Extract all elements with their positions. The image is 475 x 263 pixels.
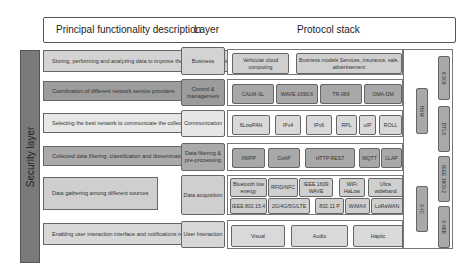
protocol-ble: Bluetooth low energy (230, 178, 267, 197)
protocol-rpl: RPL (336, 115, 357, 135)
row-description-data-acquisition: Data gathering among different sources (43, 177, 158, 210)
side-bar-dtls: DTLS (438, 106, 450, 152)
protocol-visual: Visual (231, 225, 285, 247)
protocol-tr069: TR-069 (320, 84, 362, 104)
protocol-coap: CoAP (268, 148, 300, 168)
layer-control-management: Control & management (181, 79, 225, 106)
row-description-control: Coordination of different network servic… (43, 81, 184, 101)
security-layer-bar: Security layer (20, 50, 40, 263)
protocol-calm-sl: CALM-SL (232, 84, 274, 104)
protocol-row-communication: 6LowPAN IPv4 IPv6 RPL uIP ROLL (227, 110, 403, 137)
protocol-row-control: CALM-SL WAVE-1690.6 TR-069 OMA-DM (227, 79, 403, 106)
row-description-data-filtering: Collected data filtering, classification… (43, 146, 196, 166)
protocol-roll: ROLL (379, 115, 402, 135)
protocol-wimax: WiMAX (345, 198, 370, 214)
security-layer-label: Security layer (25, 126, 36, 187)
side-bar-s-ic: S-IC (416, 186, 428, 232)
protocol-cellular: 2G/4G/5G/LTE (268, 198, 310, 214)
protocol-row-data-filtering: XMPP CoAP HTTP REST MQTT LLAP (227, 143, 403, 171)
protocol-ipv4: IPv4 (275, 115, 301, 135)
layer-communication: Communication (181, 110, 225, 137)
protocol-business-models: Business models Services, insurance, sal… (296, 53, 402, 74)
layer-data-filtering: Data filtering & pre-processing (181, 143, 225, 171)
protocol-lorawan: LoRaWAN (371, 198, 403, 214)
protocol-row-data-acquisition: Bluetooth low energy RFID/NFC IEEE 1609 … (227, 175, 403, 215)
protocol-ieee802154: IEEE 802.15.4 (230, 198, 267, 214)
protocol-http-rest: HTTP REST (305, 148, 355, 168)
header-layer: Layer (194, 24, 219, 35)
protocol-6lowpan: 6LowPAN (232, 115, 270, 135)
side-bar-ieee16092: IEEE 1609.2 (438, 156, 450, 202)
layer-user-interaction: User Interaction (181, 221, 225, 248)
protocol-row-user-interaction: Visual Audio Haptic (227, 220, 403, 249)
header-protocol-stack: Protocol stack (297, 24, 360, 35)
protocol-ipv6: IPv6 (306, 115, 332, 135)
layer-data-acquisition: Data acquisition (181, 175, 225, 215)
side-bar-x509: X.509 (438, 56, 450, 100)
side-bar-s-mib: S-MIB (438, 206, 450, 248)
protocol-rfid-nfc: RFID/NFC (268, 178, 298, 197)
protocol-mqtt: MQTT (359, 148, 380, 168)
protocol-row-business: Vehicular cloud computing Business model… (227, 49, 403, 75)
protocol-vehicular-cloud: Vehicular cloud computing (232, 53, 289, 74)
protocol-haptic: Haptic (353, 225, 403, 247)
security-protocols-frame: HSM S-IC X.509 DTLS IEEE 1609.2 S-MIB (403, 49, 453, 249)
protocol-wifi-halow: WiFi HaLow (339, 178, 365, 197)
side-bar-hsm: HSM (416, 88, 428, 134)
protocol-llap: LLAP (381, 148, 402, 168)
protocol-audio: Audio (291, 225, 348, 247)
protocol-xmpp: XMPP (232, 148, 265, 168)
header-functionality: Principal functionality description (56, 24, 201, 35)
protocol-uwb: Ultra wideband (368, 178, 403, 197)
protocol-uip: uIP (359, 115, 376, 135)
protocol-oma-dm: OMA-DM (364, 84, 402, 104)
protocol-ieee1609: IEEE 1609 WAVE (299, 178, 333, 197)
layer-business: Business (181, 47, 225, 75)
protocol-80211p: 802.11 P (315, 198, 344, 214)
table-header: Principal functionality description Laye… (43, 17, 456, 43)
protocol-wave: WAVE-1690.6 (276, 84, 318, 104)
